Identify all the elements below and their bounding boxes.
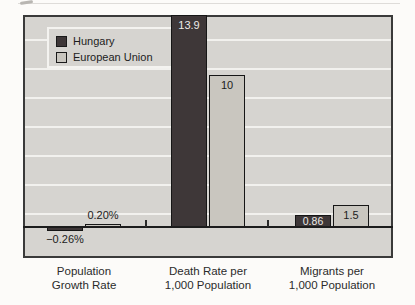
legend-label-european-union: European Union: [73, 49, 153, 65]
gridline: [25, 155, 391, 157]
bar-european-union-1: [209, 75, 245, 228]
value-label: 13.9: [161, 19, 217, 32]
european-union-swatch: [56, 52, 67, 63]
axis-tick: [267, 220, 269, 227]
gridline: [25, 184, 391, 186]
value-label: −0.26%: [37, 233, 93, 246]
scan-artifact-mark: [20, 0, 33, 5]
bar-hungary-1: [171, 15, 207, 228]
value-label: 0.20%: [75, 209, 131, 222]
legend: Hungary European Union: [47, 27, 185, 68]
gridline: [25, 97, 391, 99]
axis-tick: [145, 220, 147, 227]
gridline: [25, 68, 391, 70]
legend-label-hungary: Hungary: [73, 33, 115, 49]
legend-item-european-union: European Union: [56, 49, 183, 65]
value-label: 10: [199, 79, 255, 92]
hungary-swatch: [56, 36, 67, 47]
category-label-2: Migrants per1,000 Population: [257, 264, 407, 292]
bar-chart-figure: Hungary European Union −0.26%13.90.860.2…: [0, 0, 415, 305]
gridline: [25, 126, 391, 128]
legend-item-hungary: Hungary: [56, 33, 183, 49]
value-label: 1.5: [323, 209, 379, 222]
scan-artifact-line: [18, 3, 400, 4]
